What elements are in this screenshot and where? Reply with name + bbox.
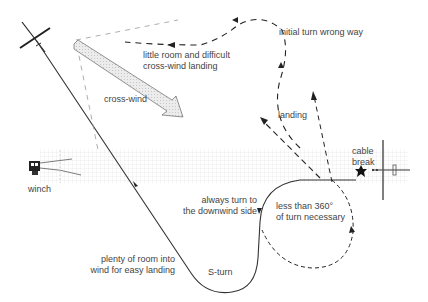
less-than-360-turn-path: [262, 180, 353, 268]
label-break: break: [352, 157, 375, 167]
label-winch: winch: [28, 184, 51, 194]
label-plenty-1: plenty of room into: [101, 254, 175, 264]
wrong-way-arrow-icon: [167, 42, 175, 48]
wrong-way-arrow-top-icon: [232, 17, 238, 23]
label-less-than-360-1: less than 360°: [276, 201, 333, 211]
label-always-turn-1: always turn to: [201, 195, 257, 205]
initial-turn-wrong-way-path: [125, 20, 300, 148]
label-initial-turn: initial turn wrong way: [279, 27, 363, 37]
label-always-turn-2: the downwind side: [183, 206, 257, 216]
wrong-way-arrow-right-icon: [278, 62, 284, 68]
label-cable: cable: [352, 146, 374, 156]
label-little-room-2: cross-wind landing: [143, 61, 218, 71]
light-dashed-line-top: [76, 20, 178, 40]
label-plenty-2: wind for easy landing: [90, 265, 175, 275]
loop-arrow-icon: [349, 226, 355, 233]
label-s-turn: S-turn: [208, 267, 233, 277]
label-less-than-360-2: of turn necessary: [276, 212, 345, 222]
landing-arrow-icon-2: [311, 91, 317, 100]
glider-icon-launch: [20, 22, 50, 52]
label-landing: landing: [278, 110, 307, 120]
landing-arrow-icon-1: [260, 117, 268, 125]
label-little-room-1: little room and difficult: [143, 50, 230, 60]
label-cross-wind: cross-wind: [104, 94, 147, 104]
